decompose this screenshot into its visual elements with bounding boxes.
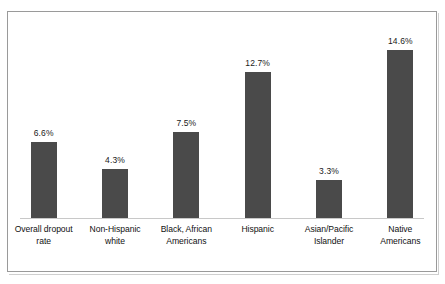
- bar[interactable]: [173, 132, 199, 218]
- bar-value-label: 4.3%: [79, 155, 150, 165]
- bar-category-label-line: Islander: [293, 236, 364, 248]
- bar-category-label-line: Asian/Pacific: [293, 224, 364, 236]
- bar-category-label: Black, AfricanAmericans: [151, 224, 222, 247]
- bar-value-label: 12.7%: [222, 58, 293, 68]
- bar[interactable]: [316, 180, 342, 218]
- bar-category-label-line: Native: [365, 224, 436, 236]
- bar-category-label-line: Non-Hispanic: [79, 224, 150, 236]
- frame-shadow-right: [438, 13, 439, 274]
- bar-category-label-line: Americans: [151, 236, 222, 248]
- bar-category-label-line: Overall dropout: [8, 224, 79, 236]
- bar-category-label-line: Americans: [365, 236, 436, 248]
- bar-group: 14.6%NativeAmericans: [365, 12, 436, 271]
- bar-group: 7.5%Black, AfricanAmericans: [151, 12, 222, 271]
- bar-category-label: Non-Hispanicwhite: [79, 224, 150, 247]
- figure-container: 6.6%Overall dropoutrate4.3%Non-Hispanicw…: [0, 0, 445, 284]
- bar-category-label-line: white: [79, 236, 150, 248]
- bar-category-label: NativeAmericans: [365, 224, 436, 247]
- bar[interactable]: [102, 169, 128, 218]
- bar-category-label-line: Black, African: [151, 224, 222, 236]
- bar-chart-plot-area: 6.6%Overall dropoutrate4.3%Non-Hispanicw…: [8, 12, 436, 271]
- bar-group: 3.3%Asian/PacificIslander: [293, 12, 364, 271]
- bar-value-label: 14.6%: [365, 36, 436, 46]
- bar-value-label: 3.3%: [293, 166, 364, 176]
- bar[interactable]: [31, 142, 57, 218]
- bar[interactable]: [245, 72, 271, 218]
- frame-shadow-bottom: [9, 274, 439, 275]
- bar[interactable]: [387, 50, 413, 218]
- bar-value-label: 6.6%: [8, 128, 79, 138]
- bar-group: 6.6%Overall dropoutrate: [8, 12, 79, 271]
- bar-group: 12.7%Hispanic: [222, 12, 293, 271]
- bar-group: 4.3%Non-Hispanicwhite: [79, 12, 150, 271]
- bar-category-label: Overall dropoutrate: [8, 224, 79, 247]
- bar-value-label: 7.5%: [151, 118, 222, 128]
- bar-category-label-line: rate: [8, 236, 79, 248]
- bar-category-label: Hispanic: [222, 224, 293, 236]
- bar-category-label: Asian/PacificIslander: [293, 224, 364, 247]
- bar-category-label-line: Hispanic: [222, 224, 293, 236]
